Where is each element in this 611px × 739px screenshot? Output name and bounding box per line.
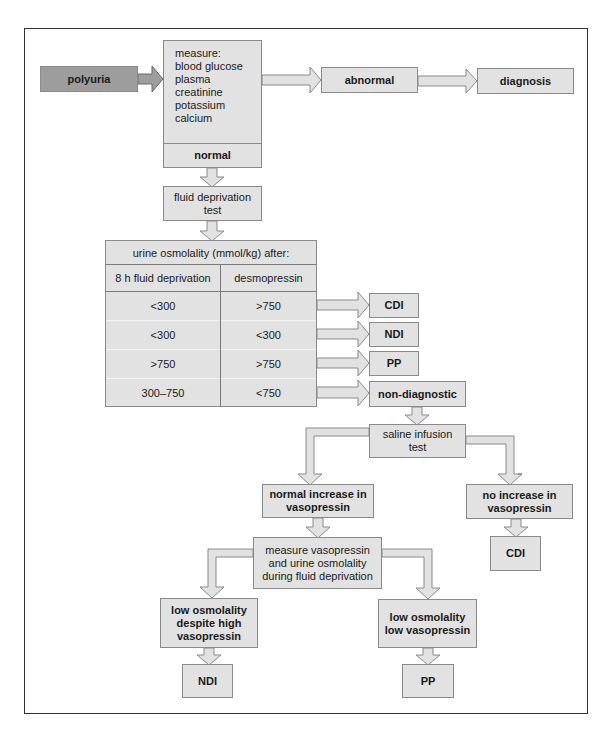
measure-vaso-line-0: measure vasopressin [262,544,373,557]
node-abnormal-label: abnormal [345,74,395,87]
node-non-diagnostic-label: non-diagnostic [378,388,457,401]
table-row: <300 >750 [106,291,316,321]
table-cell: <300 [106,291,221,320]
fluid-line-1: test [174,204,251,217]
node-normal: normal [163,143,262,168]
measure-line-5: calcium [175,112,243,125]
node-pp-1: PP [369,351,419,376]
table-cell: <300 [106,320,221,349]
node-cdi-2: CDI [490,536,541,571]
column-header-desmopressin: desmopressin [221,265,316,291]
table-cell: >750 [221,291,316,320]
table-cell: >750 [221,349,316,378]
table-cell: <300 [221,320,316,349]
low-high-line-1: despite high [171,617,247,630]
normal-increase-line-0: normal increase in [269,488,366,501]
saline-line-1: test [383,441,453,454]
node-ndi-1-label: NDI [385,328,404,341]
table-row: <300 <300 [106,320,316,350]
table-cell: >750 [106,349,221,378]
node-diagnosis-label: diagnosis [500,75,551,88]
measure-line-2: plasma [175,73,243,86]
measure-line-0: measure: [175,47,243,60]
low-low-line-1: low vasopressin [385,624,471,637]
no-increase-line-0: no increase in [483,489,557,502]
table-row: >750 >750 [106,349,316,379]
low-high-line-0: low osmolality [171,604,247,617]
table-column-headers: 8 h fluid deprivation desmopressin [106,265,316,292]
osmolality-table: urine osmolality (mmol/kg) after: 8 h fl… [105,240,317,407]
node-pp-1-label: PP [387,357,402,370]
node-cdi-1-label: CDI [385,299,404,312]
measure-vaso-line-2: during fluid deprivation [262,570,373,583]
node-measure-vasopressin: measure vasopressin and urine osmolality… [253,537,382,589]
node-cdi-1: CDI [369,293,419,318]
saline-line-0: saline infusion [383,428,453,441]
node-saline-infusion: saline infusion test [369,424,466,458]
table-cell: 300–750 [106,378,221,407]
measure-line-4: potassium [175,99,243,112]
node-polyuria-label: polyuria [68,73,111,86]
node-fluid-deprivation: fluid deprivation test [163,186,262,221]
measure-line-1: blood glucose [175,60,243,73]
node-ndi-2: NDI [182,664,233,698]
normal-increase-line-1: vasopressin [269,501,366,514]
table-row: 300–750 <750 [106,378,316,407]
node-normal-label: normal [194,149,231,162]
low-high-line-2: vasopressin [171,630,247,643]
node-diagnosis: diagnosis [477,68,574,94]
node-measure: measure: blood glucose plasma creatinine… [163,40,262,144]
node-low-osm-low-vaso: low osmolality low vasopressin [378,599,477,648]
node-no-increase: no increase in vasopressin [466,484,573,519]
column-header-fluid: 8 h fluid deprivation [106,265,221,291]
node-low-osm-high-vaso: low osmolality despite high vasopressin [160,598,258,648]
node-abnormal: abnormal [321,67,418,93]
measure-vaso-line-1: and urine osmolality [262,557,373,570]
table-header-label: urine osmolality (mmol/kg) after: [133,247,290,259]
node-pp-2: PP [402,664,454,698]
low-low-line-0: low osmolality [385,611,471,624]
node-ndi-2-label: NDI [198,675,217,688]
node-pp-2-label: PP [421,675,436,688]
node-polyuria: polyuria [40,66,138,92]
fluid-line-0: fluid deprivation [174,191,251,204]
node-normal-increase: normal increase in vasopressin [262,484,374,518]
table-header: urine osmolality (mmol/kg) after: [106,241,316,265]
node-non-diagnostic: non-diagnostic [369,381,466,407]
table-cell: <750 [221,378,316,407]
no-increase-line-1: vasopressin [483,502,557,515]
measure-line-3: creatinine [175,86,243,99]
node-ndi-1: NDI [369,322,419,347]
node-cdi-2-label: CDI [506,547,525,560]
